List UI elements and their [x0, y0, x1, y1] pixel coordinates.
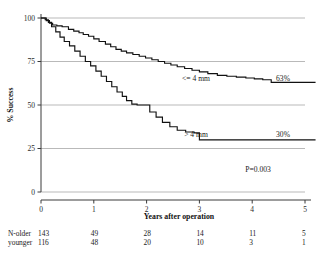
risk-row-label-0: N-older [8, 229, 32, 238]
risk-value-1-3: 10 [196, 238, 204, 247]
risk-value-0-1: 49 [91, 229, 99, 238]
y-tick-label-50: 50 [28, 101, 36, 110]
x-tick-label-5: 5 [303, 205, 307, 214]
y-tick-label-75: 75 [28, 57, 36, 66]
endpoint-label-le4mm: 63% [276, 74, 291, 83]
x-tick-label-4: 4 [250, 205, 254, 214]
pvalue-annotation: P=0.003 [245, 165, 271, 174]
risk-value-1-5: 1 [302, 238, 306, 247]
y-tick-label-0: 0 [31, 188, 35, 197]
km-curve-gt4mm [41, 18, 316, 140]
risk-value-1-1: 48 [91, 238, 99, 247]
risk-value-1-0: 116 [38, 238, 49, 247]
risk-row-label-1: younger [8, 238, 33, 247]
risk-value-0-5: 5 [302, 229, 306, 238]
endpoint-label-gt4mm: 30% [276, 130, 291, 139]
risk-value-0-3: 14 [196, 229, 204, 238]
curve-label-gt4mm: > 4 mm [184, 130, 208, 139]
y-tick-label-25: 25 [28, 144, 36, 153]
x-tick-label-1: 1 [92, 205, 96, 214]
y-tick-label-100: 100 [24, 14, 36, 23]
risk-value-1-2: 20 [144, 238, 152, 247]
risk-value-1-4: 3 [249, 238, 253, 247]
risk-value-0-4: 11 [249, 229, 256, 238]
curve-label-le4mm: <= 4 mm [182, 74, 210, 83]
survival-chart: 0255075100012345Years after operation% S… [0, 0, 319, 259]
y-axis-title: % Success [6, 88, 15, 123]
risk-value-0-2: 28 [144, 229, 152, 238]
km-curve-le4mm [41, 18, 316, 82]
x-tick-label-0: 0 [39, 205, 43, 214]
x-axis-title: Years after operation [144, 212, 215, 221]
risk-value-0-0: 143 [38, 229, 49, 238]
kaplan-meier-figure: 0255075100012345Years after operation% S… [0, 0, 319, 259]
